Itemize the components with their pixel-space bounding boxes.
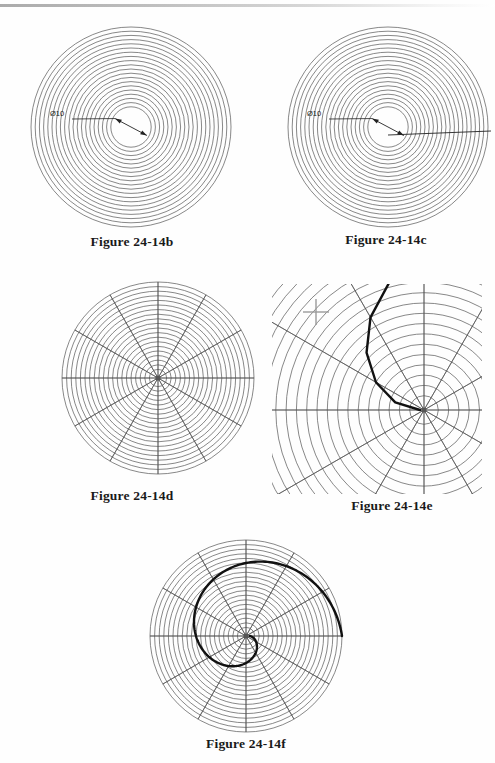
scan-edge-artifact [0,4,495,7]
fig-24-14d-group [62,282,254,474]
figure-24-14b: Ø10 [28,24,234,230]
fig-24-14b-group: Ø10 [31,27,231,227]
figure-24-14f-drawing [146,536,346,736]
diameter-dimension-label: Ø10 [50,109,64,118]
grid-spoke [319,284,482,494]
grid-circle [272,284,482,494]
grid-spoke [272,305,482,494]
grid-circle [272,284,482,494]
figure-24-14c: Ø10 [285,24,491,230]
caption-figure-24-14c: Figure 24-14c [316,232,456,248]
grid-spoke [319,284,482,494]
figure-24-14c-drawing: Ø10 [285,24,491,230]
grid-spoke [319,284,482,494]
fig-24-14e-group [272,284,482,494]
grid-spoke [272,305,482,494]
fig-24-14f-group [150,540,342,732]
grid-circle [276,284,482,494]
grid-circle [272,284,482,494]
caption-figure-24-14d: Figure 24-14d [62,488,202,504]
figure-24-14d [58,278,258,478]
grid-spoke [319,284,482,494]
figure-24-14e-drawing [272,284,482,494]
caption-figure-24-14e: Figure 24-14e [322,498,462,514]
dimension-arrowhead [140,130,147,135]
grid-center-dot [155,375,160,380]
grid-spoke [272,305,482,494]
horizontal-construction-ray [388,131,491,135]
caption-figure-24-14b: Figure 24-14b [62,234,202,250]
figure-24-14d-drawing [58,278,258,478]
grid-circle [272,284,482,494]
figure-24-14f [146,536,346,736]
fig-24-14c-group: Ø10 [288,27,491,227]
dimension-arrowhead [372,119,379,124]
grid-circle [272,284,482,494]
figure-24-14b-drawing: Ø10 [28,24,234,230]
grid-circle [272,284,482,494]
caption-figure-24-14f: Figure 24-14f [176,736,316,752]
diameter-dimension-label: Ø10 [307,109,321,118]
grid-circle [327,313,482,494]
figure-24-14e [272,284,482,494]
grid-spoke [272,305,482,494]
grid-center-dot [243,633,248,638]
grid-circle [307,293,482,494]
scanned-page: Ø10 Ø10 Figure 24-14b Figure 24-14c Figu… [0,0,495,763]
dimension-arrowhead [115,119,122,124]
grid-center-dot [421,407,426,412]
spiral-curve [194,562,342,667]
